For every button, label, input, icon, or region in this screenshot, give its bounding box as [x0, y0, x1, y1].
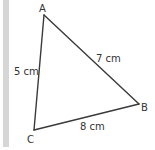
side-label-bc: 8 cm	[80, 121, 105, 132]
side-label-ab: 7 cm	[96, 53, 121, 64]
side-ab	[44, 15, 139, 104]
vertex-label-c: C	[27, 134, 34, 145]
triangle-diagram: A B C 5 cm 7 cm 8 cm	[0, 0, 155, 150]
side-label-ac: 5 cm	[14, 66, 39, 77]
vertex-label-b: B	[141, 102, 148, 113]
vertex-label-a: A	[39, 3, 46, 14]
